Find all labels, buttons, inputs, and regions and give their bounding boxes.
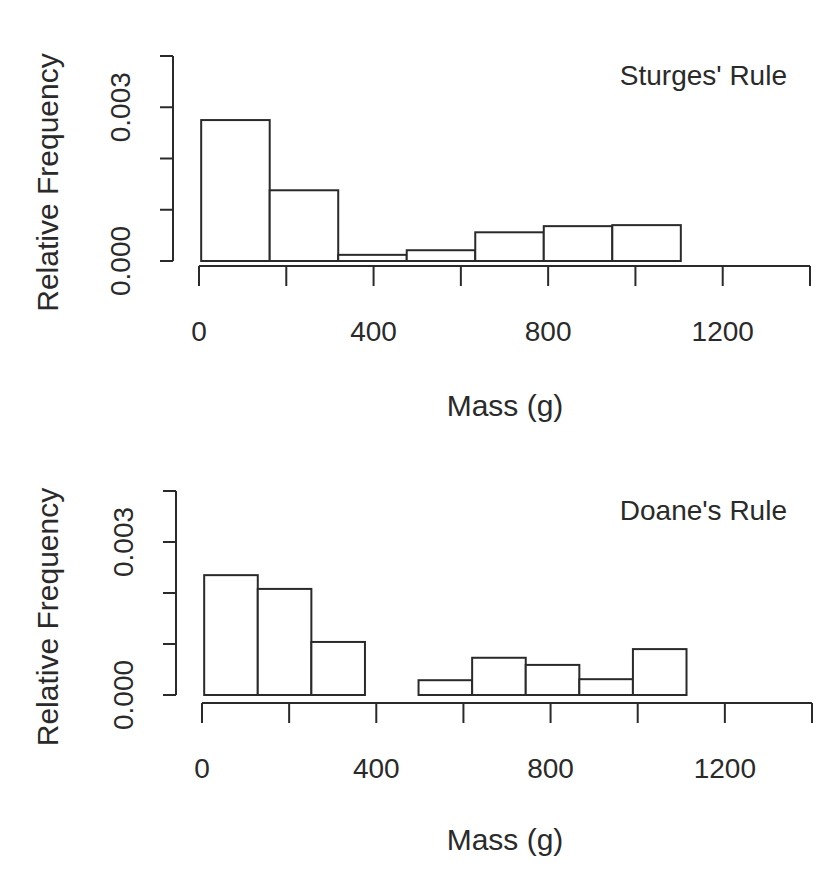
- x-axis-label: Mass (g): [447, 823, 564, 856]
- histogram-bar: [612, 225, 681, 261]
- histogram-bars: [204, 575, 686, 695]
- histogram-bar: [201, 120, 270, 261]
- legend-text: Sturges' Rule: [620, 60, 787, 91]
- histogram-bar: [475, 232, 544, 261]
- histogram-bar: [544, 226, 613, 261]
- histogram-bar: [204, 575, 258, 695]
- histogram-bar: [472, 658, 526, 695]
- y-tick-label-0.003: 0.003: [108, 507, 139, 577]
- histogram-bars: [201, 120, 681, 261]
- x-tick-label-0: 0: [191, 316, 207, 347]
- histogram-bar: [419, 680, 473, 695]
- x-axis-label: Mass (g): [447, 389, 564, 422]
- histogram-bar: [258, 589, 312, 695]
- histogram-bar: [633, 649, 687, 695]
- histogram-bar: [270, 190, 339, 261]
- y-axis-label: Relative Frequency: [31, 488, 64, 746]
- y-tick-label-0.000: 0.000: [108, 660, 139, 730]
- histogram-panel-doane: 0.000 0.003 Relative Frequency 0 400 800…: [31, 488, 813, 856]
- x-axis: [199, 266, 810, 286]
- figure-canvas: 0.000 0.003 Relative Frequency 0 400 800…: [0, 0, 840, 873]
- histogram-bar: [311, 642, 365, 695]
- legend-text: Doane's Rule: [620, 495, 787, 526]
- y-tick-label-0.000: 0.000: [105, 226, 136, 296]
- x-tick-label-1200: 1200: [694, 753, 756, 784]
- x-tick-label-800: 800: [527, 753, 574, 784]
- histogram-bar: [407, 250, 476, 261]
- y-tick-label-0.003: 0.003: [105, 72, 136, 142]
- x-axis: [202, 703, 812, 723]
- x-tick-label-800: 800: [525, 316, 572, 347]
- histogram-bar: [526, 665, 580, 695]
- x-tick-label-1200: 1200: [692, 316, 754, 347]
- y-axis: [163, 491, 176, 695]
- x-tick-label-400: 400: [353, 753, 400, 784]
- x-tick-label-400: 400: [350, 316, 397, 347]
- y-axis-label: Relative Frequency: [31, 53, 64, 311]
- histogram-bar: [338, 255, 407, 261]
- histogram-panel-sturges: 0.000 0.003 Relative Frequency 0 400 800…: [31, 53, 811, 422]
- x-tick-label-0: 0: [194, 753, 210, 784]
- histogram-bar: [579, 679, 633, 695]
- y-axis: [160, 56, 173, 261]
